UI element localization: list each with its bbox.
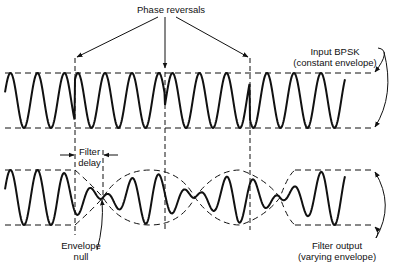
filter-delay-line2: delay: [76, 157, 103, 168]
phase-reversals-label: Phase reversals: [137, 4, 205, 15]
bpsk-filter-diagram: [0, 0, 393, 268]
filter-output-subtitle: (varying envelope): [292, 251, 382, 262]
input-bpsk-label: Input BPSK (constant envelope): [290, 46, 380, 68]
input-bpsk-subtitle: (constant envelope): [290, 57, 380, 68]
output-envelope-arrows: [375, 172, 385, 238]
envelope-null-label: Envelope null: [56, 240, 106, 262]
input-bpsk-waveform: [5, 73, 345, 128]
filter-delay-label: Filter delay: [76, 146, 103, 168]
envelope-null-line1: Envelope: [56, 240, 106, 251]
envelope-null-line2: null: [56, 251, 106, 262]
filter-output-waveform: [5, 170, 345, 225]
input-bpsk-title: Input BPSK: [290, 46, 380, 57]
phase-reversal-arrows: [77, 17, 248, 68]
filter-delay-line1: Filter: [76, 146, 103, 157]
filter-output-title: Filter output: [292, 240, 382, 251]
filter-output-label: Filter output (varying envelope): [292, 240, 382, 262]
